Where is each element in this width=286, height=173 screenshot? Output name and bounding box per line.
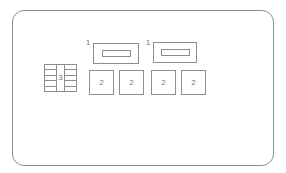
relay-1-left[interactable] [93,43,139,64]
multi-fuse-block-label: 3 [57,65,64,91]
relay-slot-icon [102,50,131,57]
multi-fuse-block-3[interactable]: 3 [44,64,77,92]
multi-fuse-right-column [64,65,76,91]
fuse-2-slot-2[interactable]: 2 [119,70,144,95]
relay-slot-icon [161,49,190,56]
relay-1-right[interactable] [153,42,197,63]
multi-fuse-cell [45,87,56,91]
fuse-2-slot-1[interactable]: 2 [89,70,114,95]
fuse-box-panel: 3 1 1 2 2 2 2 [12,10,274,166]
fuse-box-diagram: 3 1 1 2 2 2 2 [0,0,286,173]
fuse-2-slot-4[interactable]: 2 [181,70,206,95]
fuse-2-slot-3[interactable]: 2 [151,70,176,95]
callout-label-1-right: 1 [146,39,150,47]
multi-fuse-cell [65,87,76,91]
multi-fuse-left-column [45,65,57,91]
callout-label-1-left: 1 [86,39,90,47]
